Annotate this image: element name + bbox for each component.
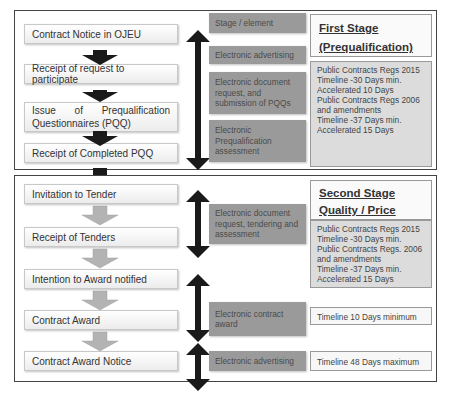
step-label: Contract Award [32, 315, 100, 326]
info-line: Public Contracts Regs 2015 [317, 224, 425, 234]
timeline-award: Timeline 10 Days minimum [310, 307, 432, 325]
info-line: Accelerated 15 Days [317, 274, 425, 284]
element-document-request-tendering: Electronic document request, tendering a… [209, 204, 306, 244]
info-line: Public Contracts Regs 2006 [317, 95, 425, 105]
info-line: and amendments [317, 105, 425, 115]
element-label: Electronic document request, and submiss… [215, 77, 300, 109]
second-stage-title: Second Stage Quality / Price [310, 180, 432, 220]
timeline-label: Timeline 10 Days minimum [317, 312, 417, 322]
second-stage-regulations: Public Contracts Regs 2015 Timeline -30 … [310, 220, 432, 288]
arrow-down-icon [80, 291, 120, 311]
info-line: Timeline -30 Days min. [317, 75, 425, 85]
element-prequalification-assessment: Electronic Prequalification assessment [209, 120, 306, 162]
arrow-down-icon [80, 131, 120, 147]
step-label: Contract Notice in OJEU [32, 29, 141, 40]
double-arrow-icon [186, 274, 210, 342]
info-line: Timeline -37 Days min. [317, 264, 425, 274]
element-electronic-contract-award: Electronic contract award [209, 302, 306, 336]
stage-title-line: Second Stage [319, 185, 423, 202]
step-contract-notice: Contract Notice in OJEU [24, 24, 178, 44]
step-label: Issue of Prequalification Questionnaires… [32, 104, 170, 130]
element-label: Electronic contract award [215, 309, 300, 330]
step-label: Contract Award Notice [32, 356, 131, 367]
stage-title-line: First Stage [319, 19, 423, 38]
step-intention-to-award: Intention to Award notified [24, 269, 178, 289]
info-line: and amendments [317, 254, 425, 264]
element-document-request-pqq: Electronic document request, and submiss… [209, 72, 306, 114]
first-stage-regulations: Public Contracts Regs 2015 Timeline -30 … [310, 61, 432, 167]
step-issue-pqq: Issue of Prequalification Questionnaires… [24, 102, 178, 132]
double-arrow-icon [186, 190, 210, 258]
arrow-down-icon [80, 50, 120, 66]
element-label: Electronic document request, tendering a… [215, 208, 300, 240]
info-line: Timeline -30 Days min. [317, 234, 425, 244]
element-header-label: Stage / element [215, 18, 273, 29]
step-contract-award-notice: Contract Award Notice [24, 351, 178, 371]
element-label: Electronic advertising [215, 50, 294, 61]
element-label: Electronic Prequalification assessment [215, 125, 300, 157]
info-line: Public Contracts Regs. 2006 [317, 244, 425, 254]
step-label: Intention to Award notified [32, 274, 147, 285]
step-contract-award: Contract Award [24, 310, 178, 330]
figure-caption-cutoff [38, 395, 278, 400]
element-label: Electronic advertising [215, 356, 294, 367]
timeline-label: Timeline 48 Days maximum [317, 357, 419, 367]
step-invitation-to-tender: Invitation to Tender [24, 184, 178, 204]
step-label: Receipt of Tenders [32, 232, 115, 243]
stage-title-line: Quality / Price [319, 202, 423, 219]
info-line: Accelerated 10 Days [317, 85, 425, 95]
arrow-down-icon [80, 332, 120, 352]
element-electronic-advertising: Electronic advertising [209, 46, 306, 64]
info-line: Timeline -37 Days min. [317, 115, 425, 125]
double-arrow-icon [186, 30, 210, 170]
stage-title-line: (Prequalification) [319, 38, 423, 57]
first-stage-title: First Stage (Prequalification) [310, 14, 432, 57]
arrow-down-icon [80, 249, 120, 269]
info-line: Accelerated 15 Days [317, 125, 425, 135]
step-label: Receipt of Completed PQQ [32, 148, 153, 159]
element-header: Stage / element [209, 13, 306, 33]
arrow-down-icon [80, 206, 120, 226]
step-label: Receipt of request to participate [32, 63, 170, 85]
info-line: Public Contracts Regs 2015 [317, 65, 425, 75]
arrow-down-icon [80, 90, 120, 104]
step-receipt-request: Receipt of request to participate [24, 64, 178, 84]
double-arrow-icon [186, 343, 210, 391]
timeline-notice: Timeline 48 Days maximum [310, 351, 432, 371]
step-label: Invitation to Tender [32, 189, 116, 200]
step-receipt-of-tenders: Receipt of Tenders [24, 227, 178, 247]
element-electronic-advertising-2: Electronic advertising [209, 351, 306, 371]
